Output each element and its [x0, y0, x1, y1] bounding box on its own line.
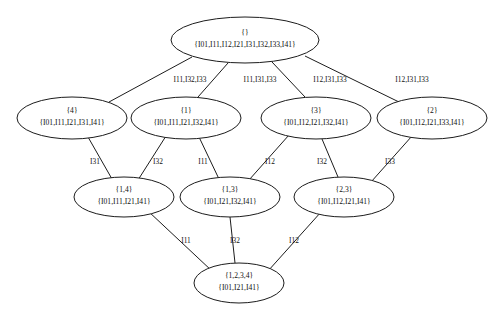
lattice-node[interactable]: {1,4}{I01,I11,I21,I41}: [74, 177, 174, 217]
node-extent-label: {2}: [426, 106, 437, 115]
node-extent-label: {1,3}: [222, 185, 239, 194]
node-intent-label: {I01,I12,I21,I33,I41}: [399, 118, 465, 127]
node-intent-label: {I01,I21,I32,I41}: [203, 197, 256, 206]
lattice-node[interactable]: {1,3}{I01,I21,I32,I41}: [180, 177, 280, 217]
node-extent-label: {3}: [310, 106, 321, 115]
edge-label: I11: [198, 157, 208, 166]
lattice-canvas: I11,I32,I33I11,I31,I33I12,I31,I33I12,I31…: [0, 0, 491, 310]
edge-label: I32: [153, 157, 163, 166]
node-intent-label: {I01,I21,I41}: [218, 283, 259, 292]
node-intent-label: {I01,I12,I21,I41}: [317, 197, 370, 206]
node-intent-label: {I01,I11,I21,I41}: [97, 197, 150, 206]
edge-label: I11,I32,I33: [174, 75, 207, 84]
lattice-node[interactable]: {2,3}{I01,I12,I21,I41}: [294, 177, 394, 217]
node-extent-label: {}: [241, 28, 248, 37]
lattice-node[interactable]: {1,2,3,4}{I01,I21,I41}: [194, 263, 284, 303]
edge-label: I31: [90, 157, 100, 166]
lattice-node[interactable]: {1}{I01,I11,I21,I32,I41}: [131, 97, 241, 139]
node-extent-label: {1,2,3,4}: [225, 271, 253, 280]
lattice-edge: [148, 211, 212, 271]
nodes-layer: {}{I01,I11,I12,I21,I31,I32,I33,I41}{4}{I…: [17, 17, 487, 303]
node-intent-label: {I01,I11,I12,I21,I31,I32,I33,I41}: [194, 40, 295, 49]
edge-label: I12,I31,I33: [395, 75, 429, 84]
lattice-node[interactable]: {}{I01,I11,I12,I21,I31,I32,I33,I41}: [171, 17, 319, 63]
edges-layer: [88, 56, 412, 271]
edge-label: I11,I31,I33: [244, 75, 277, 84]
edge-label: I12: [265, 157, 275, 166]
edge-labels-layer: I11,I32,I33I11,I31,I33I12,I31,I33I12,I31…: [90, 75, 429, 245]
edge-label: I12: [289, 236, 299, 245]
node-extent-label: {1}: [180, 106, 191, 115]
node-intent-label: {I01,I12,I21,I32,I41}: [283, 118, 349, 127]
edge-label: I32: [317, 157, 327, 166]
lattice-node[interactable]: {2}{I01,I12,I21,I33,I41}: [377, 97, 487, 139]
lattice-node[interactable]: {3}{I01,I12,I21,I32,I41}: [261, 97, 371, 139]
node-extent-label: {1,4}: [116, 185, 133, 194]
node-extent-label: {4}: [66, 106, 77, 115]
edge-label: I12,I31,I33: [313, 75, 347, 84]
node-extent-label: {2,3}: [336, 185, 353, 194]
lattice-node[interactable]: {4}{I01,I11,I21,I31,I41}: [17, 97, 127, 139]
lattice-edge: [272, 62, 305, 97]
edge-label: I11: [181, 236, 191, 245]
edge-label: I32: [230, 236, 240, 245]
concept-lattice-diagram: I11,I32,I33I11,I31,I33I12,I31,I33I12,I31…: [0, 0, 491, 310]
node-intent-label: {I01,I11,I21,I32,I41}: [153, 118, 218, 127]
node-intent-label: {I01,I11,I21,I31,I41}: [39, 118, 104, 127]
edge-label: I33: [385, 157, 395, 166]
